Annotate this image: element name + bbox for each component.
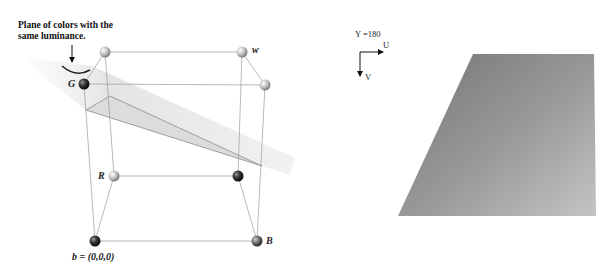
uv-slice-trapezoid xyxy=(398,54,596,216)
vertex-sphere-blue xyxy=(252,236,263,247)
y-value-label: Y =180 xyxy=(355,29,381,39)
v-axis-label: V xyxy=(365,72,371,82)
vertex-sphere-black xyxy=(90,236,101,247)
vertex-sphere-white xyxy=(237,47,248,58)
u-axis-label: U xyxy=(383,40,389,50)
label-blue: B xyxy=(266,235,273,246)
plane-annotation-line1: Plane of colors with the xyxy=(18,20,113,31)
vertex-sphere-yellow xyxy=(260,80,271,91)
vertex-sphere-red xyxy=(109,171,120,182)
vertex-sphere-green xyxy=(79,79,90,90)
vertex-sphere-cyan xyxy=(100,47,111,58)
label-white: w xyxy=(252,44,259,55)
plane-annotation: Plane of colors with the same luminance. xyxy=(18,20,113,42)
vertex-sphere-magenta xyxy=(233,171,244,182)
label-black-origin: b = (0,0,0) xyxy=(72,251,114,262)
label-red: R xyxy=(98,170,105,181)
plane-annotation-line2: same luminance. xyxy=(18,31,113,42)
luminance-plane xyxy=(28,58,295,175)
label-green: G xyxy=(68,78,75,89)
